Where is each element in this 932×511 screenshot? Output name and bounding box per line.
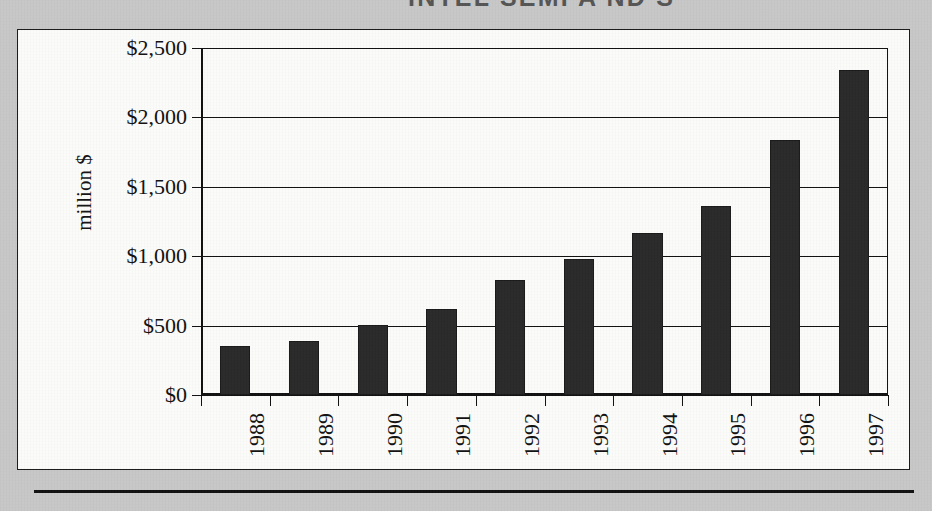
y-tick-mark bbox=[192, 117, 201, 118]
y-tick-mark bbox=[192, 256, 201, 257]
document-title: INTEL SEMI A ND S bbox=[408, 0, 675, 12]
y-tick-label: $0 bbox=[165, 382, 187, 408]
x-tick-mark bbox=[819, 395, 820, 406]
plot-area: $0$500$1,000$1,500$2,000$2,500 198819891… bbox=[201, 48, 888, 395]
x-tick-mark bbox=[751, 395, 752, 406]
y-axis-title: million $ bbox=[72, 113, 97, 273]
bar bbox=[770, 140, 800, 395]
document-title-clip: INTEL SEMI A ND S bbox=[0, 0, 932, 14]
bar bbox=[564, 259, 594, 395]
y-tick-mark bbox=[192, 326, 201, 327]
y-tick-label: $500 bbox=[143, 313, 187, 339]
bar bbox=[632, 233, 662, 395]
y-tick-label: $1,000 bbox=[127, 243, 188, 269]
x-tick-label: 1992 bbox=[519, 413, 545, 457]
x-tick-label: 1995 bbox=[725, 413, 751, 457]
x-tick-label: 1993 bbox=[588, 413, 614, 457]
x-tick-mark bbox=[270, 395, 271, 406]
bar bbox=[220, 346, 250, 395]
x-tick-mark bbox=[407, 395, 408, 406]
bar bbox=[358, 325, 388, 395]
y-gridline bbox=[201, 117, 888, 118]
x-tick-mark bbox=[545, 395, 546, 406]
y-gridline bbox=[201, 48, 888, 49]
x-tick-mark bbox=[476, 395, 477, 406]
bar bbox=[426, 309, 456, 395]
y-tick-label: $1,500 bbox=[127, 174, 188, 200]
x-tick-mark bbox=[613, 395, 614, 406]
y-tick-label: $2,000 bbox=[127, 104, 188, 130]
x-tick-label: 1996 bbox=[794, 413, 820, 457]
y-tick-mark bbox=[192, 187, 201, 188]
x-tick-mark bbox=[338, 395, 339, 406]
bar bbox=[701, 206, 731, 395]
y-tick-mark bbox=[192, 395, 201, 396]
y-tick-label: $2,500 bbox=[127, 35, 188, 61]
bar bbox=[495, 280, 525, 395]
x-tick-label: 1989 bbox=[313, 413, 339, 457]
chart-panel: million $ $0$500$1,000$1,500$2,000$2,500… bbox=[17, 29, 910, 470]
x-tick-mark bbox=[201, 395, 202, 406]
y-tick-mark bbox=[192, 48, 201, 49]
x-tick-label: 1991 bbox=[450, 413, 476, 457]
bar bbox=[289, 341, 319, 395]
x-tick-label: 1994 bbox=[657, 413, 683, 457]
x-tick-label: 1990 bbox=[382, 413, 408, 457]
x-tick-label: 1988 bbox=[244, 413, 270, 457]
x-tick-label: 1997 bbox=[863, 413, 889, 457]
bottom-rule bbox=[34, 490, 914, 493]
x-tick-mark bbox=[682, 395, 683, 406]
bar bbox=[839, 70, 869, 395]
x-tick-mark bbox=[888, 395, 889, 406]
